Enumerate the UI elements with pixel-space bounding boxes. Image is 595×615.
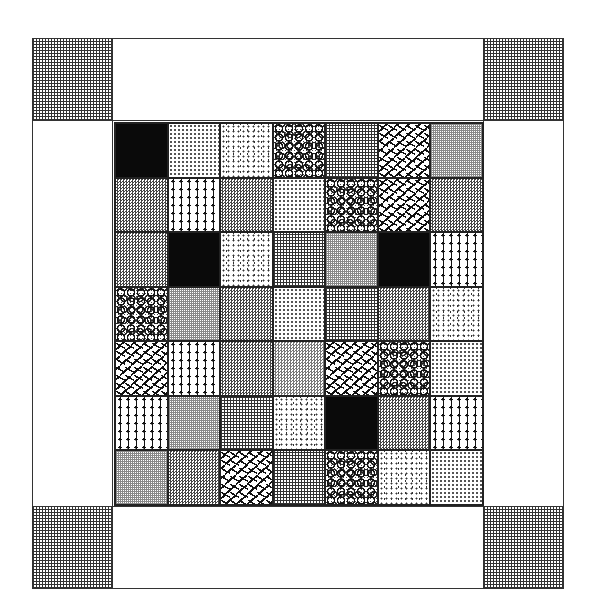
patch-dots bbox=[430, 341, 483, 396]
quilt-diagram bbox=[32, 38, 563, 588]
patch-finegrid bbox=[168, 287, 221, 342]
patch-check bbox=[378, 287, 431, 342]
patch-dots bbox=[273, 287, 326, 342]
corner-block-top-left bbox=[32, 38, 113, 121]
patch-dots bbox=[273, 178, 326, 233]
patch-stipple bbox=[430, 287, 483, 342]
patch-black bbox=[325, 396, 378, 451]
patch-finegrid bbox=[168, 396, 221, 451]
patch-stipple bbox=[220, 232, 273, 287]
patch-check bbox=[220, 287, 273, 342]
patch-finegrid bbox=[325, 232, 378, 287]
patch-bubbles bbox=[273, 123, 326, 178]
patch-palms bbox=[168, 178, 221, 233]
patch-bubbles bbox=[325, 178, 378, 233]
patch-confetti bbox=[378, 123, 431, 178]
corner-block-bottom-right bbox=[483, 506, 564, 589]
border-strip-top bbox=[112, 38, 485, 121]
palm-tree-pattern bbox=[169, 179, 220, 232]
border-strip-right bbox=[483, 120, 564, 508]
patch-confetti bbox=[220, 450, 273, 505]
patch-confetti bbox=[325, 341, 378, 396]
patch-black bbox=[168, 232, 221, 287]
patch-bubbles bbox=[325, 450, 378, 505]
palm-tree-pattern bbox=[431, 233, 482, 286]
patch-dots bbox=[430, 450, 483, 505]
patch-confetti bbox=[115, 341, 168, 396]
patch-grid bbox=[273, 232, 326, 287]
patch-grid bbox=[325, 287, 378, 342]
palm-tree-pattern bbox=[431, 397, 482, 450]
border-strip-bottom bbox=[112, 506, 485, 589]
patch-palms bbox=[430, 232, 483, 287]
patch-check bbox=[220, 341, 273, 396]
patch-grid bbox=[220, 396, 273, 451]
patch-palms bbox=[115, 396, 168, 451]
patch-check bbox=[115, 178, 168, 233]
patch-palms bbox=[430, 396, 483, 451]
palm-tree-pattern bbox=[116, 397, 167, 450]
patch-stipple bbox=[220, 123, 273, 178]
patch-palms bbox=[168, 341, 221, 396]
patch-check bbox=[220, 178, 273, 233]
corner-block-top-right bbox=[483, 38, 564, 121]
patch-dots bbox=[168, 123, 221, 178]
patch-grid bbox=[114, 122, 484, 506]
patch-check bbox=[378, 396, 431, 451]
patch-finegrid bbox=[115, 450, 168, 505]
patch-confetti bbox=[378, 178, 431, 233]
patch-grid bbox=[325, 123, 378, 178]
patch-stipple bbox=[273, 396, 326, 451]
patch-check bbox=[115, 232, 168, 287]
border-strip-left bbox=[32, 120, 113, 508]
patch-grid bbox=[273, 450, 326, 505]
patch-check bbox=[168, 450, 221, 505]
patch-check bbox=[430, 178, 483, 233]
patch-check2 bbox=[273, 341, 326, 396]
patch-black bbox=[378, 232, 431, 287]
patch-black bbox=[115, 123, 168, 178]
patch-bubbles bbox=[115, 287, 168, 342]
corner-block-bottom-left bbox=[32, 506, 113, 589]
patch-finegrid bbox=[430, 123, 483, 178]
palm-tree-pattern bbox=[169, 342, 220, 395]
patch-stipple bbox=[378, 450, 431, 505]
patch-bubbles bbox=[378, 341, 431, 396]
